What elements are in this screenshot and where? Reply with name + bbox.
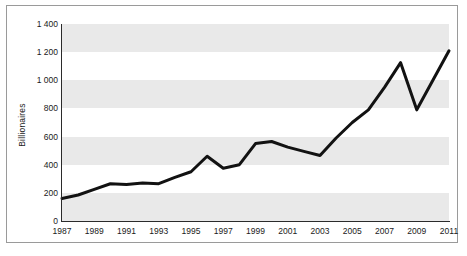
y-axis-tick-label: 1 000 (10, 75, 58, 85)
x-axis-line (61, 221, 450, 222)
chart-figure: Billionaires 02004006008001 0001 2001 40… (6, 5, 458, 243)
x-axis-tick-label: 2007 (375, 226, 394, 236)
x-axis-tick-label: 1991 (117, 226, 136, 236)
x-axis-tick-label: 2005 (343, 226, 362, 236)
x-axis-tick-label: 2011 (440, 226, 458, 236)
x-axis-tick-label: 1987 (53, 226, 72, 236)
x-axis-tick-labels: 1987198919911993199519971999200120032005… (62, 226, 449, 242)
y-axis-tick-labels: 02004006008001 0001 2001 400 (7, 6, 58, 244)
x-axis-tick-label: 2003 (311, 226, 330, 236)
x-axis-tick-label: 1989 (85, 226, 104, 236)
y-axis-line (61, 24, 62, 222)
y-axis-tick-label: 400 (10, 160, 58, 170)
line-series-svg (62, 24, 449, 221)
y-axis-tick-label: 1 400 (10, 19, 58, 29)
plot-area (62, 24, 449, 221)
x-axis-tick-label: 1995 (182, 226, 201, 236)
y-axis-tick-label: 600 (10, 132, 58, 142)
x-axis-tick-label: 1993 (149, 226, 168, 236)
y-axis-tick-label: 200 (10, 188, 58, 198)
billionaires-line-series (62, 51, 449, 199)
x-axis-tick-label: 2001 (278, 226, 297, 236)
y-axis-tick-label: 1 200 (10, 47, 58, 57)
x-axis-tick-label: 2009 (407, 226, 426, 236)
y-axis-tick-label: 0 (10, 216, 58, 226)
x-axis-tick-label: 1999 (246, 226, 265, 236)
y-axis-tick-label: 800 (10, 103, 58, 113)
x-axis-tick-label: 1997 (214, 226, 233, 236)
